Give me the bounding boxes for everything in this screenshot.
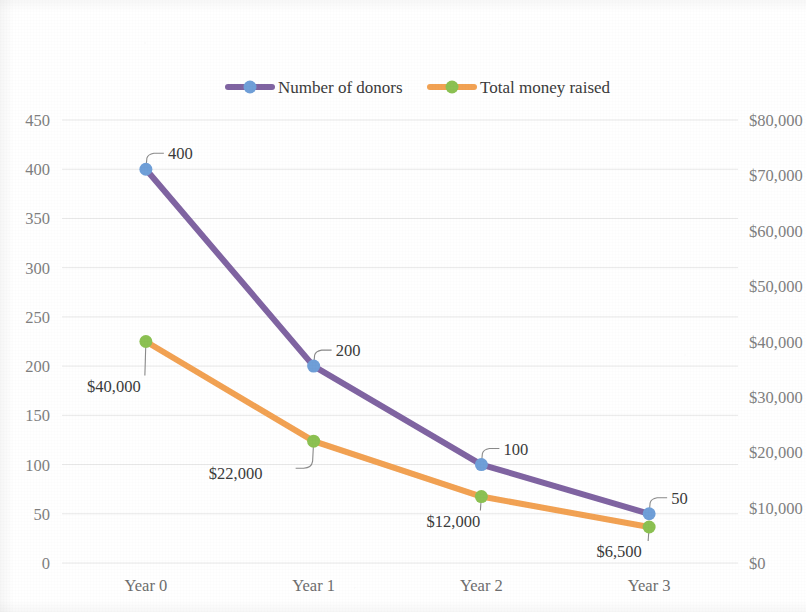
line-chart: 050100150200250300350400450 $0$10,000$20… <box>0 0 806 612</box>
left-axis-tick-label: 350 <box>25 209 50 228</box>
left-axis-tick-label: 0 <box>42 554 50 573</box>
left-axis-tick-label: 400 <box>25 160 50 179</box>
chart-container: 050100150200250300350400450 $0$10,000$20… <box>0 0 806 612</box>
legend-item-label: Total money raised <box>480 78 611 97</box>
series-marker <box>643 507 656 520</box>
chart-background <box>0 0 806 612</box>
right-axis-tick-label: $70,000 <box>749 166 803 185</box>
right-axis-tick-label: $10,000 <box>749 499 803 518</box>
left-axis-tick-label: 250 <box>25 308 50 327</box>
data-label: $12,000 <box>427 512 481 531</box>
right-axis-tick-label: $0 <box>749 554 766 573</box>
legend-marker-swatch <box>244 81 257 94</box>
data-label: 400 <box>168 144 193 163</box>
x-axis-category-label: Year 1 <box>292 576 335 595</box>
series-marker <box>307 435 320 448</box>
right-axis-tick-label: $60,000 <box>749 222 803 241</box>
left-axis-tick-label: 150 <box>25 406 50 425</box>
legend-item-label: Number of donors <box>278 78 403 97</box>
series-marker <box>139 163 152 176</box>
series-marker <box>475 458 488 471</box>
left-axis-tick-label: 300 <box>25 259 50 278</box>
series-marker <box>475 490 488 503</box>
right-axis-tick-label: $80,000 <box>749 111 803 130</box>
right-axis-tick-labels: $0$10,000$20,000$30,000$40,000$50,000$60… <box>749 111 803 573</box>
x-axis-category-label: Year 3 <box>628 576 671 595</box>
left-axis-tick-label: 200 <box>25 357 50 376</box>
data-label: $40,000 <box>87 377 141 396</box>
data-label: 100 <box>503 440 528 459</box>
left-axis-tick-label: 100 <box>25 456 50 475</box>
data-label: 200 <box>336 341 361 360</box>
data-label: $6,500 <box>596 542 641 561</box>
series-marker <box>643 521 656 534</box>
right-axis-tick-label: $30,000 <box>749 388 803 407</box>
series-marker <box>139 335 152 348</box>
x-axis-category-label: Year 2 <box>460 576 503 595</box>
data-label: $22,000 <box>209 464 263 483</box>
x-axis-category-label: Year 0 <box>124 576 167 595</box>
left-axis-tick-label: 450 <box>25 111 50 130</box>
right-axis-tick-label: $50,000 <box>749 277 803 296</box>
legend-marker-swatch <box>446 81 459 94</box>
right-axis-tick-label: $20,000 <box>749 443 803 462</box>
left-axis-tick-label: 50 <box>34 505 51 524</box>
data-label: 50 <box>671 489 688 508</box>
right-axis-tick-label: $40,000 <box>749 333 803 352</box>
series-marker <box>307 360 320 373</box>
